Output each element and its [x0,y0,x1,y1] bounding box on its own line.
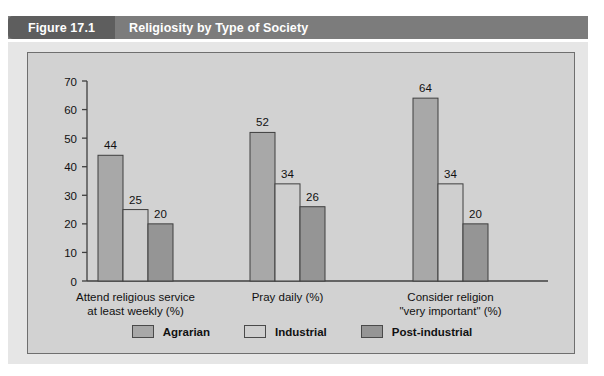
legend-label: Industrial [275,326,327,338]
y-axis-tick-label: 60 [64,104,77,116]
y-axis-tick-label: 10 [64,247,77,259]
figure-number-label: Figure 17.1 [28,21,95,35]
bar-value-label: 34 [444,168,457,180]
legend-item: Industrial [244,325,327,338]
y-axis-tick-label: 30 [64,190,77,202]
y-axis-tick-label: 50 [64,133,77,145]
figure-outer-panel: 010203040506070442520Attend religious se… [8,42,588,364]
bar-value-label: 52 [256,116,269,128]
bar-value-label: 64 [419,82,432,94]
legend-swatch [132,325,154,338]
x-axis-category-label: Pray daily (%) [252,291,324,303]
y-axis-tick-label: 40 [64,161,77,173]
bar [438,184,463,281]
x-axis-category-label: Attend religious service [76,291,195,303]
figure-root: Figure 17.1 Religiosity by Type of Socie… [0,0,604,376]
chart-panel: 010203040506070442520Attend religious se… [27,52,575,354]
bar-value-label: 44 [104,139,117,151]
bar [148,224,173,281]
legend-swatch [361,325,383,338]
x-axis-category-label: at least weekly (%) [87,305,184,317]
figure-title: Religiosity by Type of Society [129,21,308,35]
plot-area: 010203040506070442520Attend religious se… [28,53,576,355]
legend-item: Agrarian [132,325,210,338]
y-axis-tick-label: 20 [64,218,77,230]
bar-value-label: 34 [281,168,294,180]
bar [123,210,148,281]
bar-value-label: 26 [306,191,319,203]
bar [300,207,325,281]
y-axis-tick-label: 70 [64,76,77,88]
bar [413,98,438,281]
legend-item: Post-industrial [361,325,473,338]
x-axis-category-label: "very important" (%) [399,305,501,317]
bar [250,132,275,281]
figure-header-band: Figure 17.1 Religiosity by Type of Socie… [8,16,588,39]
figure-number-tab: Figure 17.1 [8,16,115,39]
legend-swatch [244,325,266,338]
bar [275,184,300,281]
legend-label: Agrarian [163,326,210,338]
chart-legend: AgrarianIndustrialPost-industrial [28,325,576,338]
bar [463,224,488,281]
bar-value-label: 25 [129,194,142,206]
bar-value-label: 20 [469,208,482,220]
bar [98,155,123,281]
bar-chart-svg: 010203040506070442520Attend religious se… [28,53,576,355]
x-axis-category-label: Consider religion [407,291,493,303]
y-axis-tick-label: 0 [71,276,77,288]
legend-label: Post-industrial [392,326,473,338]
bar-value-label: 20 [154,208,167,220]
